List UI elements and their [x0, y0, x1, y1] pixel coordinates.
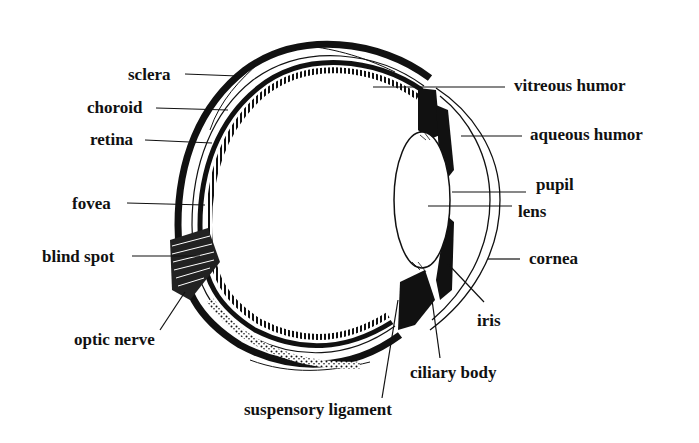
sclera	[178, 44, 430, 370]
label-vitreous-humor: vitreous humor	[514, 77, 626, 94]
label-optic-nerve: optic nerve	[74, 331, 155, 348]
label-lens: lens	[518, 203, 546, 220]
label-sclera: sclera	[128, 66, 170, 83]
retina	[209, 70, 418, 337]
label-cornea: cornea	[529, 250, 578, 267]
label-ciliary-body: ciliary body	[410, 364, 496, 381]
label-choroid: choroid	[87, 99, 142, 116]
lens	[394, 132, 450, 268]
label-suspensory-ligament: suspensory ligament	[244, 401, 392, 418]
label-pupil: pupil	[536, 176, 574, 193]
label-fovea: fovea	[72, 195, 111, 212]
label-iris: iris	[477, 312, 501, 329]
eye-diagram	[0, 0, 699, 443]
label-retina: retina	[90, 131, 133, 148]
label-aqueous-humor: aqueous humor	[530, 126, 643, 143]
label-blind-spot: blind spot	[42, 248, 114, 265]
